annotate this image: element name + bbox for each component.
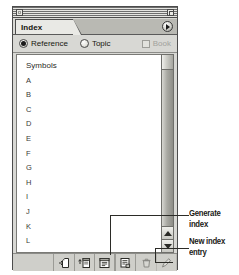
- toolbar-spacer: [13, 254, 54, 271]
- radio-topic-icon: [80, 39, 89, 48]
- radio-topic-label: Topic: [92, 39, 111, 48]
- new-page-icon: [58, 257, 71, 269]
- list-item[interactable]: H: [17, 176, 161, 191]
- import-topics-icon: [78, 257, 91, 269]
- tab-index-label: Index: [21, 23, 42, 32]
- radio-topic[interactable]: Topic: [80, 39, 111, 48]
- list-item[interactable]: F: [17, 147, 161, 162]
- tab-strip: Index: [13, 18, 177, 35]
- list-item[interactable]: L: [17, 234, 161, 249]
- callout-newentry-line1: New index: [189, 236, 225, 247]
- delete-button[interactable]: [136, 254, 156, 271]
- callout-leader-new-entry: [155, 248, 156, 262]
- tab-index[interactable]: Index: [15, 19, 73, 34]
- close-box-icon[interactable]: [16, 9, 23, 16]
- radio-reference-label: Reference: [31, 39, 68, 48]
- callout-generate-index: Generate index: [189, 208, 220, 229]
- list-item[interactable]: Symbols: [17, 59, 161, 74]
- index-list[interactable]: Symbols A B C D E F G H I J K L: [16, 54, 161, 253]
- list-item[interactable]: D: [17, 117, 161, 132]
- import-topics-button[interactable]: [75, 254, 95, 271]
- callout-generate-line1: Generate: [189, 208, 220, 219]
- list-item[interactable]: B: [17, 88, 161, 103]
- list-item[interactable]: C: [17, 103, 161, 118]
- scroll-up-arrow[interactable]: [162, 226, 173, 239]
- generate-index-icon: [98, 257, 111, 269]
- index-list-area: Symbols A B C D E F G H I J K L: [13, 53, 177, 253]
- new-index-entry-button[interactable]: [116, 254, 136, 271]
- callout-leader-new-entry: [155, 248, 182, 249]
- index-palette-window: Index Reference Topic Book Symbols A B C…: [12, 6, 178, 270]
- callout-leader-generate: [181, 215, 189, 216]
- palette-menu-button[interactable]: [162, 21, 173, 32]
- callout-leader-new-entry: [181, 248, 189, 249]
- list-item[interactable]: I: [17, 190, 161, 205]
- scrollbar-thumb[interactable]: [162, 55, 173, 70]
- scrollbar-track[interactable]: [162, 70, 173, 226]
- callout-newentry-line2: entry: [189, 247, 225, 258]
- callout-new-index-entry: New index entry: [189, 236, 225, 257]
- checkbox-book-label: Book: [153, 39, 171, 48]
- scroll-up-arrow-icon: [164, 231, 172, 236]
- list-item[interactable]: G: [17, 161, 161, 176]
- list-item[interactable]: A: [17, 74, 161, 89]
- vertical-scrollbar[interactable]: [161, 54, 174, 253]
- callout-leader-generate: [110, 215, 182, 216]
- popup-arrow-icon: [166, 24, 170, 30]
- new-page-button[interactable]: [54, 254, 74, 271]
- checkbox-book[interactable]: Book: [142, 39, 171, 48]
- list-item[interactable]: K: [17, 220, 161, 235]
- scroll-down-arrow[interactable]: [162, 239, 173, 252]
- callout-leader-generate: [110, 215, 111, 255]
- new-index-entry-icon: [119, 257, 132, 269]
- callout-leader-new-entry: [155, 262, 173, 263]
- zoom-box-icon[interactable]: [167, 9, 174, 16]
- radio-reference-icon: [19, 39, 28, 48]
- palette-toolbar: [13, 253, 177, 271]
- options-row: Reference Topic Book: [13, 35, 177, 53]
- window-title-bar[interactable]: [13, 7, 177, 18]
- checkbox-book-icon: [142, 40, 150, 48]
- list-item[interactable]: J: [17, 205, 161, 220]
- callout-generate-line2: index: [189, 219, 220, 230]
- list-item[interactable]: E: [17, 132, 161, 147]
- radio-reference[interactable]: Reference: [19, 39, 68, 48]
- generate-index-button[interactable]: [95, 254, 115, 271]
- trash-icon: [140, 257, 153, 269]
